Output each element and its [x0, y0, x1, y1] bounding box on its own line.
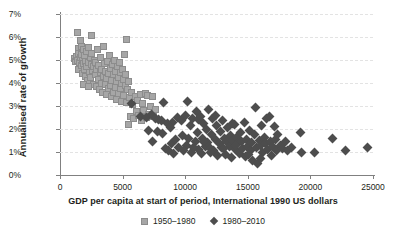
chart-legend: 1950–19801980–2010	[0, 216, 406, 226]
data-point-series-1	[125, 78, 132, 85]
y-tick-label: 6%	[0, 32, 21, 42]
legend-item-1[interactable]: 1950–1980	[141, 216, 196, 226]
y-tick-label: 4%	[0, 78, 21, 88]
y-tick-label: 1%	[0, 147, 21, 157]
data-point-series-2	[328, 133, 338, 143]
x-axis-title: GDP per capita at start of period, Inter…	[0, 196, 406, 206]
plot-area: 0%1%2%3%4%5%6%7% 05000100001500020000250…	[60, 14, 373, 175]
legend-square-icon	[141, 218, 148, 225]
y-tick-mark	[56, 37, 60, 38]
data-point-series-2	[309, 147, 319, 157]
x-tick-label: 20000	[288, 182, 332, 192]
y-tick-mark	[56, 83, 60, 84]
data-point-series-2	[341, 146, 351, 156]
y-tick-mark	[56, 14, 60, 15]
data-point-series-2	[183, 96, 193, 106]
y-tick-label: 2%	[0, 124, 21, 134]
legend-item-2[interactable]: 1980–2010	[210, 216, 266, 226]
x-tick-mark	[185, 175, 186, 179]
x-tick-mark	[60, 175, 61, 179]
legend-label: 1980–2010	[223, 216, 266, 226]
y-tick-mark	[56, 129, 60, 130]
y-tick-mark	[56, 60, 60, 61]
data-point-series-1	[149, 93, 156, 100]
x-tick-mark	[310, 175, 311, 179]
gridline	[60, 37, 373, 38]
x-tick-mark	[373, 175, 374, 179]
data-point-series-1	[121, 51, 128, 58]
y-tick-label: 0%	[0, 170, 21, 180]
data-point-series-2	[239, 117, 249, 127]
scatter-chart: Annualised rate of growth 0%1%2%3%4%5%6%…	[0, 0, 406, 239]
legend-label: 1950–1980	[153, 216, 196, 226]
y-tick-mark	[56, 152, 60, 153]
x-tick-label: 25000	[351, 182, 395, 192]
y-tick-label: 7%	[0, 9, 21, 19]
data-point-series-1	[100, 43, 107, 50]
x-tick-mark	[123, 175, 124, 179]
data-point-series-1	[88, 32, 95, 39]
data-point-series-2	[297, 147, 307, 157]
x-tick-label: 0	[38, 182, 82, 192]
x-tick-label: 10000	[163, 182, 207, 192]
gridline	[60, 106, 373, 107]
legend-diamond-icon	[209, 217, 217, 225]
y-tick-label: 5%	[0, 55, 21, 65]
gridline	[60, 14, 373, 15]
x-axis-line	[60, 175, 375, 176]
x-tick-label: 5000	[101, 182, 145, 192]
data-point-series-2	[158, 129, 168, 139]
y-tick-label: 3%	[0, 101, 21, 111]
data-point-series-2	[363, 142, 373, 152]
data-point-series-2	[148, 137, 158, 147]
y-tick-mark	[56, 106, 60, 107]
x-tick-mark	[248, 175, 249, 179]
x-tick-label: 15000	[226, 182, 270, 192]
data-point-series-1	[123, 36, 130, 43]
data-point-series-1	[85, 83, 92, 90]
data-point-series-1	[74, 29, 81, 36]
data-point-series-2	[250, 102, 260, 112]
